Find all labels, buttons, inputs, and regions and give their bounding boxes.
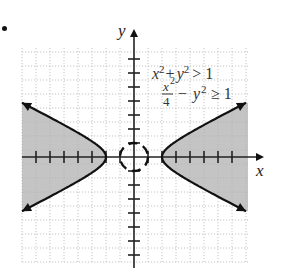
y-axis-label: y — [116, 21, 126, 40]
svg-text:y: y — [191, 85, 201, 103]
svg-text:2: 2 — [170, 75, 175, 86]
inequality-graph: x y x2+y2> 1 x 2 4 − y 2 ≥ 1 — [0, 0, 282, 274]
svg-text:2: 2 — [201, 83, 207, 95]
svg-text:x: x — [162, 79, 169, 94]
svg-text:−: − — [178, 85, 187, 102]
x-axis-label: x — [255, 161, 264, 180]
svg-text:≥ 1: ≥ 1 — [211, 85, 232, 102]
svg-text:4: 4 — [163, 94, 170, 109]
